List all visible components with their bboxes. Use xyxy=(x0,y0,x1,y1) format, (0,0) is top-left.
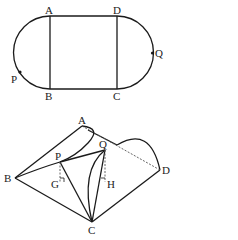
bottom-figure xyxy=(15,126,160,222)
arc-right xyxy=(117,139,160,170)
point-P-dot xyxy=(18,70,21,73)
label-B-bottom: B xyxy=(4,172,11,184)
right-semicircle xyxy=(117,16,154,89)
label-A-top: A xyxy=(45,4,53,16)
diagram-canvas: A D B C P Q A B C D P Q G H xyxy=(0,0,238,240)
segment-QC xyxy=(92,150,105,222)
label-C-top: C xyxy=(113,90,120,102)
label-P-top: P xyxy=(11,73,17,85)
label-A-bottom: A xyxy=(78,114,86,126)
label-H-bottom: H xyxy=(107,178,115,190)
label-D-top: D xyxy=(113,4,121,16)
label-G-bottom: G xyxy=(51,178,59,190)
segment-BA xyxy=(15,126,82,178)
curve-BP xyxy=(15,162,60,178)
point-Q-dot xyxy=(151,51,154,54)
right-angle-G xyxy=(60,178,64,182)
arc-A-P xyxy=(60,126,94,162)
label-Q-bottom: Q xyxy=(99,138,107,150)
label-D-bottom: D xyxy=(162,164,170,176)
label-P-bottom: P xyxy=(55,150,61,162)
top-figure xyxy=(14,16,154,89)
right-angle-marks xyxy=(60,178,105,182)
left-semicircle xyxy=(14,16,51,89)
label-C-bottom: C xyxy=(88,224,95,236)
label-B-top: B xyxy=(45,90,52,102)
label-Q-top: Q xyxy=(155,47,163,59)
